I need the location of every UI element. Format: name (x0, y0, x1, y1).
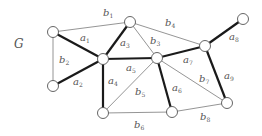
graph-diagram: b1a1b2a2a3b3b4a5a4b5a6a7b7a8a9b6b8 G (0, 0, 262, 136)
edge-label-b1: b1 (103, 7, 113, 19)
edge-label-a8: a8 (229, 31, 239, 43)
edge-label-a7: a7 (183, 54, 193, 66)
edge-label-a4: a4 (108, 75, 118, 87)
edge-label-b5: b5 (135, 86, 145, 98)
edge-label-a2: a2 (73, 76, 83, 88)
vertex-n9 (167, 107, 178, 118)
edge-b1 (53, 22, 130, 32)
vertex-n4 (152, 53, 163, 64)
edge-label-a3: a3 (120, 37, 130, 49)
edge-label-b4: b4 (165, 17, 175, 29)
vertex-n3 (98, 54, 109, 65)
edge-label-b2: b2 (59, 54, 69, 66)
vertex-n6 (238, 14, 249, 25)
edge-label-a6: a6 (172, 82, 182, 94)
edge-label-b3: b3 (150, 35, 160, 47)
edge-label-a5: a5 (126, 62, 136, 74)
edge-a5 (103, 58, 157, 59)
vertex-n5 (200, 41, 211, 52)
edge-label-a9: a9 (224, 70, 234, 82)
vertex-n8 (98, 108, 109, 119)
edge-label-b7: b7 (199, 73, 209, 85)
vertex-n1 (48, 27, 59, 38)
nodes-layer (48, 14, 249, 119)
edge-label-a1: a1 (80, 32, 90, 44)
graph-name-label: G (14, 37, 24, 51)
vertex-n2 (125, 17, 136, 28)
edge-label-b8: b8 (200, 111, 210, 123)
vertex-n10 (222, 98, 233, 109)
vertex-n7 (48, 81, 59, 92)
edge-a7 (157, 46, 205, 58)
edge-b6 (103, 112, 172, 113)
edge-label-b6: b6 (134, 119, 144, 131)
